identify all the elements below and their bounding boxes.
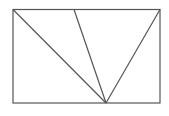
middle-diagonal-line: [74, 10, 106, 104]
outer-rectangle: [13, 10, 160, 104]
left-diagonal-line: [13, 10, 106, 104]
right-diagonal-line: [106, 10, 160, 104]
geometry-diagram: [0, 0, 169, 116]
